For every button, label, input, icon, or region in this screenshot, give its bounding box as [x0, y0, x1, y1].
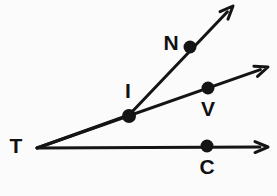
- point-dot-V: [202, 82, 215, 95]
- geometry-diagram: TNIVC: [0, 0, 277, 196]
- diagram-canvas: TNIVC: [0, 0, 277, 196]
- point-label-C: C: [199, 155, 214, 178]
- point-dot-C: [201, 140, 214, 153]
- point-label-I: I: [125, 79, 131, 102]
- point-label-V: V: [201, 97, 215, 120]
- ray-TC-line: [37, 147, 260, 148]
- diagram-background: [0, 0, 277, 196]
- point-label-N: N: [163, 31, 178, 54]
- point-dot-I: [122, 109, 136, 123]
- point-dot-N: [184, 41, 197, 54]
- point-label-T: T: [10, 134, 23, 157]
